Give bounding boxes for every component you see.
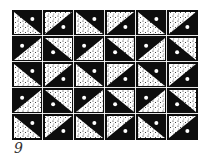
tile-tr (14, 116, 41, 138)
white-dot (154, 121, 158, 125)
white-dot (51, 102, 55, 106)
pattern-grid (12, 10, 198, 140)
tile-tr (138, 116, 165, 138)
tile-tr (14, 12, 41, 34)
white-dot (175, 102, 179, 106)
tile-bl (45, 38, 72, 60)
tile-bl (45, 90, 72, 112)
tile-br (169, 12, 196, 34)
tile-br (107, 12, 134, 34)
tile-br (107, 64, 134, 86)
tile-br (45, 116, 72, 138)
white-dot (144, 44, 148, 48)
tile-bl (169, 38, 196, 60)
white-dot (154, 69, 158, 73)
white-dot (113, 50, 117, 54)
tile-tr (76, 116, 103, 138)
white-dot (123, 77, 127, 81)
white-dot (92, 69, 96, 73)
white-dot (185, 25, 189, 29)
tile-br (45, 64, 72, 86)
white-dot (30, 69, 34, 73)
tile-tr (138, 64, 165, 86)
white-dot (82, 44, 86, 48)
white-dot (30, 17, 34, 21)
white-dot (185, 77, 189, 81)
white-dot (154, 17, 158, 21)
white-dot (61, 77, 65, 81)
tile-br (45, 12, 72, 34)
white-dot (144, 96, 148, 100)
white-dot (20, 44, 24, 48)
tile-tl (76, 90, 103, 112)
white-dot (123, 129, 127, 133)
tile-tl (14, 38, 41, 60)
tile-tr (138, 12, 165, 34)
white-dot (51, 50, 55, 54)
tile-tl (76, 38, 103, 60)
white-dot (185, 129, 189, 133)
tile-tl (138, 90, 165, 112)
white-dot (30, 121, 34, 125)
white-dot (61, 129, 65, 133)
tile-bl (107, 90, 134, 112)
tile-tr (14, 64, 41, 86)
tile-tl (138, 38, 165, 60)
triangle-tile-pattern (12, 10, 198, 140)
tile-tr (76, 12, 103, 34)
white-dot (82, 96, 86, 100)
white-dot (92, 121, 96, 125)
white-dot (61, 25, 65, 29)
white-dot (92, 17, 96, 21)
tile-br (169, 116, 196, 138)
tile-br (169, 64, 196, 86)
tile-bl (107, 38, 134, 60)
tile-br (107, 116, 134, 138)
tile-tl (14, 90, 41, 112)
tile-bl (169, 90, 196, 112)
figure-number: 9 (14, 141, 23, 155)
white-dot (175, 50, 179, 54)
white-dot (20, 96, 24, 100)
tile-tr (76, 64, 103, 86)
white-dot (113, 102, 117, 106)
white-dot (123, 25, 127, 29)
